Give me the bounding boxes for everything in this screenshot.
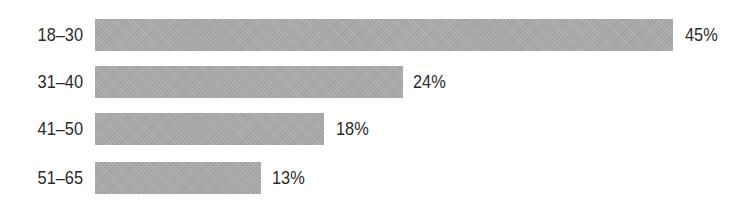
bar (95, 113, 324, 145)
bar (95, 19, 673, 51)
bar-row: 41–50 18% (0, 113, 744, 145)
value-label: 24% (413, 66, 446, 98)
category-label: 41–50 (12, 113, 83, 145)
value-label: 45% (685, 19, 718, 51)
category-label: 18–30 (12, 19, 83, 51)
bar (95, 162, 261, 194)
value-label: 13% (272, 162, 305, 194)
bar-row: 31–40 24% (0, 66, 744, 98)
bar-row: 18–30 45% (0, 19, 744, 51)
bar (95, 66, 403, 98)
value-label: 18% (336, 113, 369, 145)
category-label: 31–40 (12, 66, 83, 98)
category-label: 51–65 (12, 162, 83, 194)
bar-row: 51–65 13% (0, 162, 744, 194)
